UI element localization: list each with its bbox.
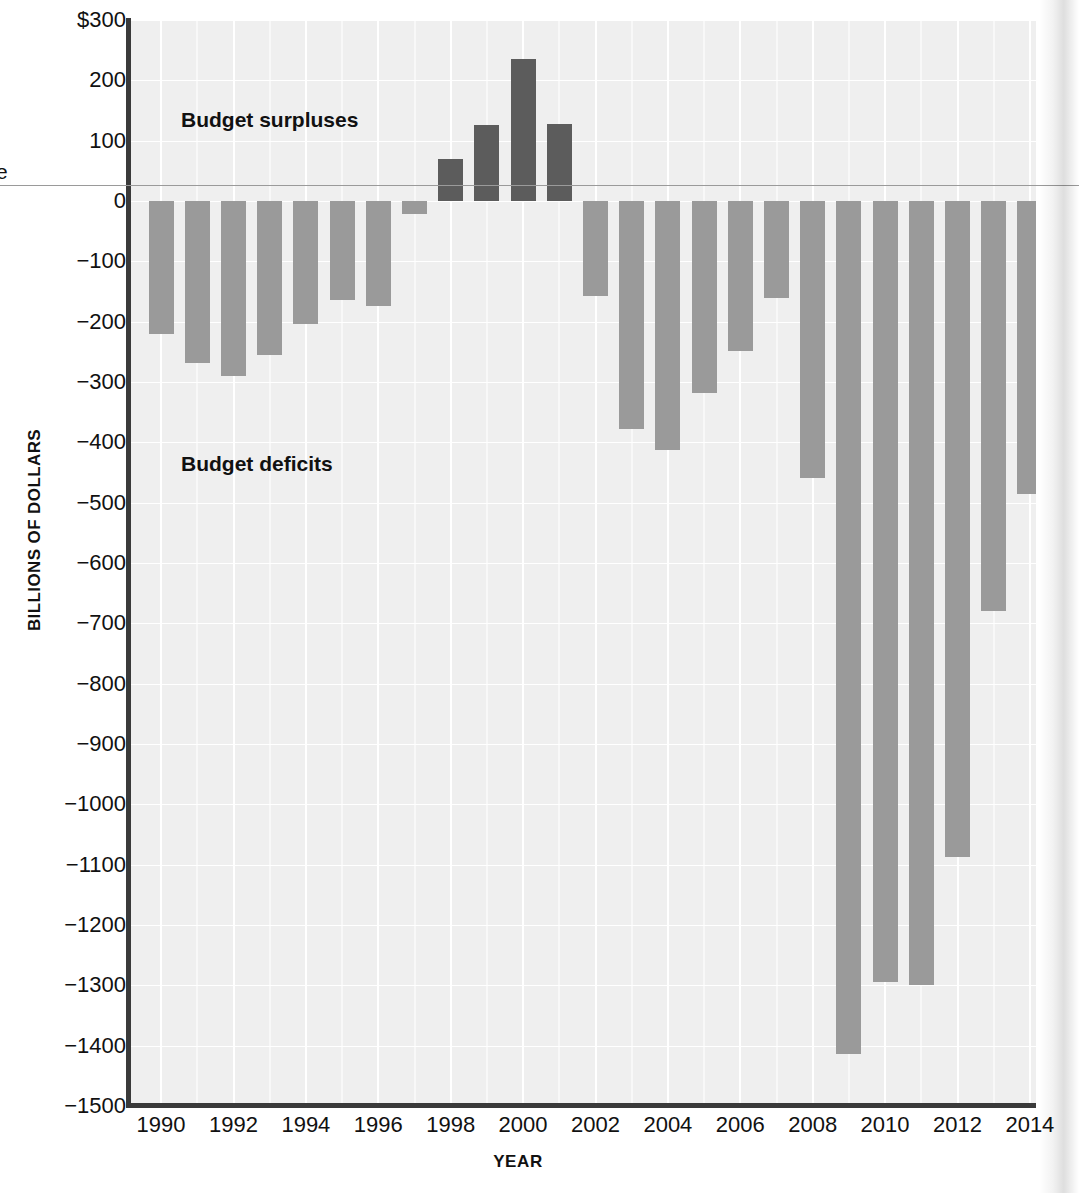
y-axis-tick-label: 200 [4,69,126,91]
y-axis-tick-label: 100 [4,130,126,152]
bar-deficit [366,201,391,306]
vertical-gridline [739,20,741,1106]
vertical-gridline [812,20,814,1106]
horizontal-gridline [131,623,1036,624]
y-axis-tick-label: −1000 [4,793,126,815]
y-axis-tick-label: −1300 [4,974,126,996]
vertical-gridline [160,20,162,1106]
bar-deficit [909,201,934,985]
horizontal-gridline [131,1046,1036,1047]
vertical-gridline-minor [269,20,271,1106]
vertical-gridline-minor [196,20,198,1106]
bar-deficit [1017,201,1036,494]
bar-deficit [836,201,861,1054]
y-axis-tick-label: −200 [4,311,126,333]
vertical-gridline-minor [703,20,705,1106]
bar-deficit [655,201,680,450]
margin-text-fragment: e [0,160,8,184]
y-axis-tick-label: $300 [4,9,126,31]
chart-page: e Budget surpluses Budget deficits $3002… [0,0,1079,1193]
bar-deficit [185,201,210,363]
y-axis-tick-label: −700 [4,612,126,634]
x-axis-tick-label: 2014 [985,1112,1075,1138]
bar-deficit [728,201,753,351]
horizontal-gridline [131,865,1036,866]
bar-deficit [873,201,898,982]
horizontal-gridline [131,20,1036,21]
y-axis-tick-label: −1200 [4,914,126,936]
bar-deficit [293,201,318,324]
y-axis-tick-label: 0 [4,190,126,212]
y-axis-tick-labels: $3002001000−100−200−300−400−500−600−700−… [0,0,126,1193]
annotation-budget-surpluses: Budget surpluses [181,108,358,132]
y-axis-tick-label: −1400 [4,1035,126,1057]
bar-deficit [981,201,1006,611]
horizontal-gridline [131,925,1036,926]
vertical-gridline [233,20,235,1106]
horizontal-gridline [131,442,1036,443]
vertical-gridline-minor [776,20,778,1106]
vertical-gridline-minor [414,20,416,1106]
y-axis-tick-label: −400 [4,431,126,453]
y-axis-line [126,18,131,1108]
bar-deficit [149,201,174,334]
margin-rule [0,185,1079,186]
vertical-gridline [595,20,597,1106]
y-axis-tick-label: −1100 [4,854,126,876]
annotation-budget-deficits: Budget deficits [181,452,333,476]
bar-surplus [474,125,499,201]
y-axis-tick-label: −800 [4,673,126,695]
bar-surplus [547,124,572,201]
vertical-gridline-minor [341,20,343,1106]
horizontal-gridline [131,985,1036,986]
x-axis-title: YEAR [0,1152,1036,1172]
horizontal-gridline [131,503,1036,504]
bar-surplus [438,159,463,201]
bar-deficit [221,201,246,376]
bar-deficit [764,201,789,298]
horizontal-gridline [131,744,1036,745]
y-axis-title: BILLIONS OF DOLLARS [25,400,45,660]
bar-deficit [945,201,970,857]
y-axis-tick-label: −100 [4,250,126,272]
bar-deficit [619,201,644,429]
horizontal-gridline [131,80,1036,81]
horizontal-gridline [131,563,1036,564]
horizontal-gridline [131,382,1036,383]
x-axis-line [126,1103,1036,1108]
bar-deficit [330,201,355,300]
bar-deficit [257,201,282,355]
bar-deficit [692,201,717,393]
bar-deficit [583,201,608,296]
horizontal-gridline [131,141,1036,142]
y-axis-tick-label: −900 [4,733,126,755]
vertical-gridline [1029,20,1031,1106]
vertical-gridline [667,20,669,1106]
horizontal-gridline [131,804,1036,805]
y-axis-tick-label: −500 [4,492,126,514]
y-axis-tick-label: −600 [4,552,126,574]
bar-surplus [511,59,536,201]
page-edge-shadow [1039,0,1079,1193]
plot-area [131,20,1036,1106]
horizontal-gridline [131,684,1036,685]
bar-deficit [402,201,427,214]
vertical-gridline [305,20,307,1106]
y-axis-tick-label: −300 [4,371,126,393]
y-axis-tick-label: −1500 [4,1095,126,1117]
bar-deficit [800,201,825,478]
vertical-gridline-minor [631,20,633,1106]
vertical-gridline [377,20,379,1106]
